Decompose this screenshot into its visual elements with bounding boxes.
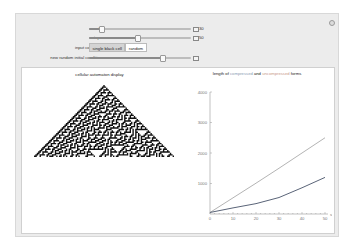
y-tick-label: 3000: [198, 120, 208, 125]
plot-title-part: length of: [213, 71, 230, 76]
ca-title: cellular automaton display: [22, 72, 177, 77]
steps-slider-fill: [89, 37, 137, 39]
x-axis-label: steps: [330, 212, 332, 217]
compressed-line: [210, 177, 325, 212]
steps-slider-knob[interactable]: [135, 35, 141, 42]
y-tick-label: 4000: [198, 90, 208, 95]
output-panel: cellular automaton display length of com…: [21, 67, 335, 234]
steps-expand-box[interactable]: [193, 36, 199, 42]
y-tick-label: 2000: [198, 151, 208, 156]
steps-slider[interactable]: [89, 37, 191, 39]
manipulate-panel: rule 30 steps 50 input condition single …: [15, 13, 339, 237]
uncompressed-line: [210, 138, 325, 213]
random-seed-slider-knob[interactable]: [160, 55, 166, 62]
x-tick-label: 10: [231, 216, 236, 221]
rule-slider[interactable]: [89, 28, 191, 30]
random-seed-control: new random initial condition: [16, 54, 338, 62]
x-tick-label: 50: [323, 216, 328, 221]
plot-title-part: and: [253, 71, 262, 76]
rule-value: 30: [199, 25, 204, 33]
input-condition-control: input condition single black cell random: [16, 44, 338, 52]
controls-area: rule 30 steps 50 input condition single …: [16, 14, 338, 64]
rule-slider-knob[interactable]: [99, 26, 105, 33]
single-black-cell-button[interactable]: single black cell: [89, 43, 125, 52]
rule-control: rule 30: [16, 25, 338, 33]
steps-value: 50: [199, 34, 204, 42]
rule-expand-box[interactable]: [193, 27, 199, 33]
plot-title: length of compressed and uncompressed fo…: [182, 71, 332, 76]
x-tick-label: 20: [254, 216, 259, 221]
cellular-automaton-display: [34, 85, 174, 157]
x-tick-label: 40: [300, 216, 305, 221]
x-tick-label: 30: [277, 216, 282, 221]
length-plot: 100020003000400001020304050steps: [172, 80, 332, 230]
x-tick-label: 0: [209, 216, 212, 221]
plot-title-uncompressed: uncompressed: [262, 71, 289, 76]
input-condition-setter: single black cell random: [89, 43, 147, 52]
random-button[interactable]: random: [125, 43, 146, 52]
ca-cells: [34, 85, 174, 157]
plot-title-part: forms: [290, 71, 302, 76]
plot-title-compressed: compressed: [230, 71, 253, 76]
random-seed-slider[interactable]: [89, 57, 191, 59]
random-seed-expand-box[interactable]: [193, 56, 199, 62]
y-tick-label: 1000: [198, 181, 208, 186]
steps-control: steps 50: [16, 34, 338, 42]
random-seed-slider-fill: [89, 57, 162, 59]
